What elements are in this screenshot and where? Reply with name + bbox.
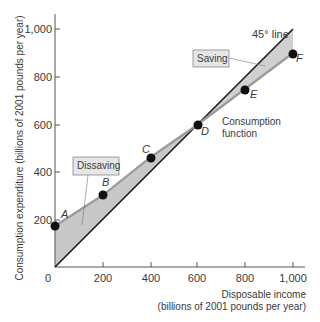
svg-text:200: 200 <box>34 214 52 226</box>
point-a <box>51 222 60 231</box>
svg-text:A: A <box>60 208 68 220</box>
svg-text:400: 400 <box>34 166 52 178</box>
consumption-function-label-1: Consumption <box>222 116 281 127</box>
saving-label: Saving <box>197 53 228 64</box>
x-tick-labels: 0 200 400 600 800 1,000 <box>45 272 307 284</box>
x-axis-title: Disposable income <box>222 289 307 300</box>
x-axis-units: (billions of 2001 pounds per year) <box>158 301 306 312</box>
svg-text:1,000: 1,000 <box>24 23 52 35</box>
dissaving-label: Dissaving <box>77 160 120 171</box>
y-ticks <box>55 29 60 220</box>
line-45-label: 45° line <box>252 28 289 40</box>
svg-text:F: F <box>296 52 304 64</box>
svg-text:1,000: 1,000 <box>279 272 307 284</box>
x-ticks <box>103 262 293 267</box>
y-axis-title: Consumption expenditure (billions of 200… <box>14 15 25 280</box>
consumption-function-label-2: function <box>222 128 257 139</box>
svg-text:B: B <box>102 176 109 188</box>
svg-text:400: 400 <box>142 272 160 284</box>
svg-text:800: 800 <box>34 71 52 83</box>
consumption-function-chart: 200 400 600 800 1,000 0 200 400 600 800 … <box>0 0 320 322</box>
point-b <box>99 191 108 200</box>
consumption-function-line <box>55 53 293 226</box>
svg-text:D: D <box>201 125 209 137</box>
svg-text:0: 0 <box>45 272 51 284</box>
line-45-degree <box>55 29 293 267</box>
svg-text:800: 800 <box>236 272 254 284</box>
svg-text:600: 600 <box>34 119 52 131</box>
svg-text:600: 600 <box>188 272 206 284</box>
svg-text:200: 200 <box>94 272 112 284</box>
svg-text:C: C <box>142 143 150 155</box>
y-tick-labels: 200 400 600 800 1,000 <box>24 23 52 226</box>
svg-text:E: E <box>250 88 258 100</box>
point-e <box>241 86 250 95</box>
